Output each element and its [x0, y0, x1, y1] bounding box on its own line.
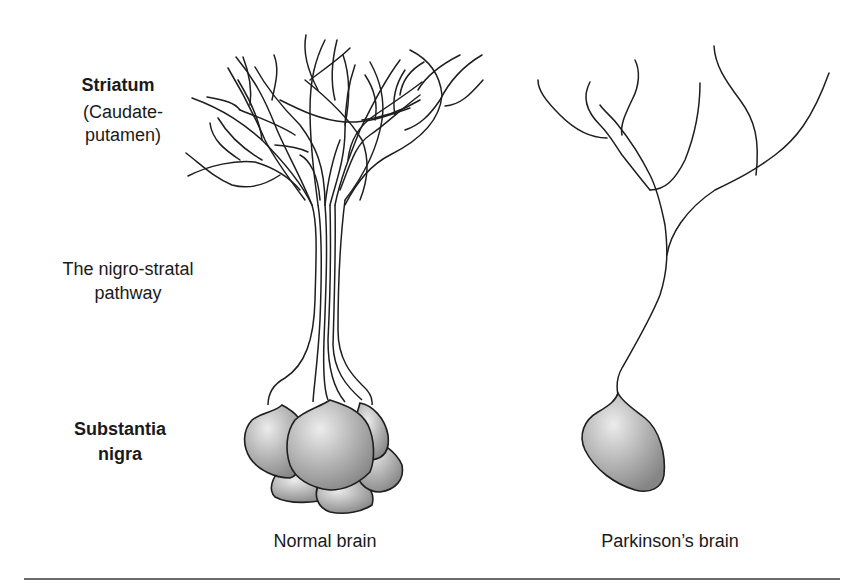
bottom-rule [24, 578, 840, 580]
normal-axon-bundle [268, 200, 372, 405]
caudate-putamen-label-line1: (Caudate- [68, 101, 178, 124]
pathway-label-line1: The nigro-stratal [38, 258, 218, 281]
normal-brain-caption: Normal brain [250, 530, 400, 553]
substantia-nigra-label-line1: Substantia [55, 418, 185, 441]
normal-cell-bodies [245, 400, 403, 513]
caudate-putamen-label-line2: putamen) [68, 124, 178, 147]
striatum-label: Striatum [68, 74, 168, 97]
pathway-label-line2: pathway [38, 282, 218, 305]
parkinsons-brain-caption: Parkinson’s brain [570, 530, 770, 553]
substantia-nigra-label-line2: nigra [55, 443, 185, 466]
parkinsons-cell-body [582, 393, 664, 491]
parkinsons-arbor [538, 46, 829, 395]
normal-striatum-arbor [186, 35, 483, 205]
